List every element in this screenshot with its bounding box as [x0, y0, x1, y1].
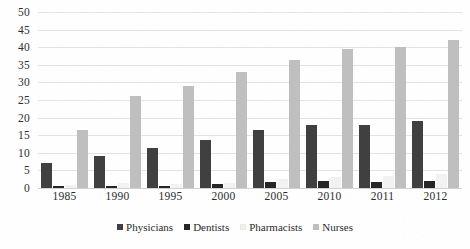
bar [200, 140, 211, 188]
x-axis: 19851990199520002005201020112012 [38, 190, 462, 208]
y-axis-tick-label: 30 [18, 76, 30, 88]
x-axis-tick-label: 1995 [144, 190, 197, 208]
bar-group [409, 12, 462, 188]
plot-area [38, 12, 462, 188]
bar [77, 130, 88, 188]
x-axis-tick-label: 2005 [250, 190, 303, 208]
bar [236, 72, 247, 188]
legend-item[interactable]: Physicians [117, 221, 173, 233]
bar-group [91, 12, 144, 188]
bar-groups [38, 12, 462, 188]
y-axis-tick-label: 50 [18, 6, 30, 18]
bar [118, 183, 129, 188]
bar [330, 177, 341, 188]
bar [277, 179, 288, 188]
bar [424, 181, 435, 188]
bar [183, 86, 194, 188]
bar [448, 40, 459, 188]
y-axis-tick-label: 15 [18, 129, 30, 141]
y-axis-tick-label: 5 [24, 164, 30, 176]
legend-item-label: Pharmacists [249, 221, 302, 233]
bar [342, 49, 353, 188]
legend-item[interactable]: Dentists [184, 221, 229, 233]
bar [224, 183, 235, 188]
x-axis-tick-label: 1985 [38, 190, 91, 208]
gridline [38, 188, 462, 189]
legend-item[interactable]: Pharmacists [240, 221, 302, 233]
bar [412, 121, 423, 188]
bar [371, 182, 382, 188]
legend-swatch-icon [184, 224, 190, 230]
bar [94, 156, 105, 188]
x-axis-tick-label: 1990 [91, 190, 144, 208]
bar [289, 60, 300, 188]
x-axis-tick-label: 2011 [356, 190, 409, 208]
legend-swatch-icon [313, 224, 319, 230]
y-axis-tick-label: 0 [24, 182, 30, 194]
bar [159, 186, 170, 188]
y-axis: 50454035302520151050 [0, 12, 34, 188]
x-axis-tick-label: 2010 [303, 190, 356, 208]
legend-item-label: Nurses [322, 221, 353, 233]
bar-group [303, 12, 356, 188]
bar-group [356, 12, 409, 188]
bar-chart: 50454035302520151050 1985199019952000200… [0, 0, 470, 249]
legend-item[interactable]: Nurses [313, 221, 353, 233]
x-axis-tick-label: 2012 [409, 190, 462, 208]
y-axis-tick-label: 45 [18, 24, 30, 36]
legend-swatch-icon [117, 224, 123, 230]
y-axis-tick-label: 40 [18, 41, 30, 53]
legend-swatch-icon [240, 224, 246, 230]
bar-group [197, 12, 250, 188]
y-axis-tick-label: 20 [18, 112, 30, 124]
bar [106, 186, 117, 188]
bar [171, 184, 182, 188]
bar [383, 176, 394, 188]
bar-group [38, 12, 91, 188]
bar [53, 186, 64, 188]
y-axis-tick-label: 25 [18, 94, 30, 106]
y-axis-tick-label: 35 [18, 59, 30, 71]
bar [306, 125, 317, 188]
legend-item-label: Physicians [126, 221, 173, 233]
bar [265, 182, 276, 188]
bar [318, 181, 329, 188]
bar-group [250, 12, 303, 188]
bar [41, 163, 52, 188]
x-axis-tick-label: 2000 [197, 190, 250, 208]
bar [436, 174, 447, 188]
y-axis-tick-label: 10 [18, 147, 30, 159]
bar [65, 185, 76, 188]
legend-item-label: Dentists [193, 221, 229, 233]
bar [395, 47, 406, 188]
bar [253, 130, 264, 188]
chart-legend: PhysiciansDentistsPharmacistsNurses [0, 221, 470, 233]
bar [212, 184, 223, 188]
bar [130, 96, 141, 188]
bar [359, 125, 370, 188]
bar [147, 148, 158, 188]
bar-group [144, 12, 197, 188]
